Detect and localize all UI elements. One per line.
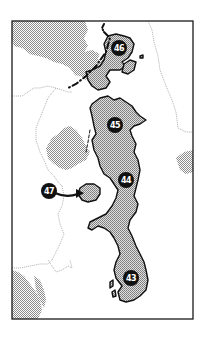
region-island-north-1 — [122, 60, 136, 74]
dashdot-north — [102, 24, 104, 32]
marker-label: 47 — [44, 187, 54, 196]
marker-45[interactable]: 45 — [107, 117, 123, 133]
marker-label: 44 — [121, 176, 132, 185]
region-island-north-2 — [140, 55, 143, 58]
terrain-west-center — [46, 126, 90, 170]
marker-46[interactable]: 46 — [111, 40, 127, 56]
map: 46 45 44 47 43 — [0, 0, 205, 339]
map-content — [12, 21, 193, 319]
boundary-west-north — [12, 86, 72, 96]
map-svg: 46 45 44 47 43 — [0, 0, 205, 339]
boundary-east — [148, 21, 193, 132]
arrow-shaft — [55, 193, 78, 196]
region-island-south-2 — [112, 290, 116, 297]
marker-label: 43 — [126, 274, 136, 283]
marker-43[interactable]: 43 — [123, 270, 139, 286]
region-island-south-1 — [110, 280, 113, 288]
marker-label: 45 — [110, 121, 121, 130]
boundary-west-south — [12, 186, 64, 268]
marker-44[interactable]: 44 — [118, 172, 134, 188]
marker-47[interactable]: 47 — [41, 183, 57, 199]
marker-label: 46 — [114, 44, 125, 53]
boundary-southwest-river — [48, 260, 72, 272]
terrain-east — [176, 150, 193, 174]
terrain-southwest — [12, 270, 42, 319]
